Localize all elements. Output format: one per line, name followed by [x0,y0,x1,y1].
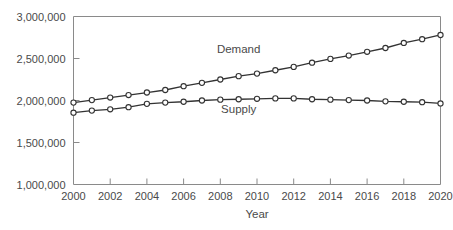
x-tick-label: 2010 [245,190,269,202]
data-point-supply [163,100,168,105]
supply-demand-chart: 1,000,0001,500,0002,000,0002,500,0003,00… [0,0,453,230]
x-axis-tick-labels: 2000200220042006200820102012201420162018… [61,190,452,202]
y-tick-label: 2,500,000 [17,53,66,65]
axis-titles: Year [245,208,268,220]
data-point-demand [71,100,76,105]
data-point-supply [401,99,406,104]
data-point-demand [365,49,370,54]
x-tick-label: 2002 [98,190,122,202]
y-tick-label: 2,000,000 [17,95,66,107]
y-axis-tick-labels: 1,000,0001,500,0002,000,0002,500,0003,00… [17,11,66,191]
data-point-demand [438,32,443,37]
x-tick-label: 2018 [392,190,416,202]
data-point-demand [401,40,406,45]
data-point-demand [383,45,388,50]
x-tick-label: 2014 [318,190,342,202]
data-point-supply [365,98,370,103]
data-point-supply [89,108,94,113]
x-tick-label: 2000 [61,190,85,202]
data-point-supply [218,97,223,102]
data-point-demand [273,68,278,73]
series-label-demand: Demand [217,43,260,55]
y-tick-label: 3,000,000 [17,11,66,23]
x-tick-label: 2012 [281,190,305,202]
data-point-supply [438,101,443,106]
x-tick-label: 2006 [171,190,195,202]
data-point-supply [328,97,333,102]
data-point-supply [181,99,186,104]
x-tick-label: 2004 [135,190,159,202]
data-point-demand [199,80,204,85]
data-point-demand [291,64,296,69]
data-point-supply [291,96,296,101]
data-point-demand [420,37,425,42]
data-point-supply [346,97,351,102]
data-point-demand [346,53,351,58]
chart-canvas: 1,000,0001,500,0002,000,0002,500,0003,00… [0,0,453,230]
data-point-demand [218,77,223,82]
data-point-demand [254,71,259,76]
data-point-demand [163,87,168,92]
data-point-supply [126,105,131,110]
data-point-supply [108,107,113,112]
data-point-supply [254,96,259,101]
x-tick-label: 2016 [355,190,379,202]
data-point-demand [144,90,149,95]
data-point-demand [126,92,131,97]
data-point-demand [89,97,94,102]
series-label-supply: Supply [221,103,256,115]
data-point-supply [199,98,204,103]
data-point-supply [236,97,241,102]
data-point-supply [71,110,76,115]
data-point-demand [328,56,333,61]
data-point-demand [108,95,113,100]
data-point-supply [144,101,149,106]
data-point-supply [273,96,278,101]
data-point-supply [309,97,314,102]
data-point-supply [420,100,425,105]
x-tick-label: 2020 [428,190,452,202]
x-axis-title: Year [245,208,268,220]
x-tick-label: 2008 [208,190,232,202]
data-point-supply [383,99,388,104]
y-tick-label: 1,000,000 [17,179,66,191]
data-point-demand [181,84,186,89]
x-axis-ticks [110,179,404,185]
data-point-demand [236,74,241,79]
data-point-demand [309,60,314,65]
y-tick-label: 1,500,000 [17,137,66,149]
